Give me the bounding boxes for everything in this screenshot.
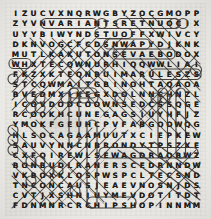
letter-cell[interactable]: K <box>74 90 83 100</box>
letter-cell[interactable]: M <box>56 80 65 90</box>
letter-cell[interactable]: D <box>47 100 56 110</box>
letter-cell[interactable]: W <box>120 39 129 49</box>
letter-cell[interactable]: U <box>147 70 156 80</box>
letter-cell[interactable]: S <box>156 181 165 191</box>
letter-cell[interactable]: T <box>101 29 110 39</box>
letter-cell[interactable]: N <box>174 90 183 100</box>
letter-cell[interactable]: L <box>65 161 74 171</box>
letter-cell[interactable]: H <box>138 80 147 90</box>
letter-cell[interactable]: O <box>56 100 65 110</box>
letter-cell[interactable]: S <box>165 100 174 110</box>
letter-cell[interactable]: A <box>174 80 183 90</box>
letter-cell[interactable]: U <box>47 161 56 171</box>
letter-cell[interactable]: W <box>174 120 183 130</box>
letter-cell[interactable]: E <box>120 49 129 59</box>
letter-cell[interactable]: A <box>74 130 83 140</box>
letter-cell[interactable]: G <box>56 39 65 49</box>
letter-cell[interactable]: B <box>38 29 47 39</box>
letter-cell[interactable]: E <box>165 70 174 80</box>
letter-cell[interactable]: N <box>92 161 101 171</box>
letter-cell[interactable]: B <box>11 161 20 171</box>
letter-cell[interactable]: N <box>138 181 147 191</box>
letter-cell[interactable]: C <box>11 191 20 201</box>
letter-cell[interactable]: N <box>29 39 38 49</box>
letter-cell[interactable]: V <box>129 49 138 59</box>
letter-cell[interactable]: L <box>192 90 201 100</box>
letter-cell[interactable]: A <box>65 80 74 90</box>
letter-cell[interactable]: R <box>56 201 65 211</box>
letter-cell[interactable]: B <box>101 80 110 90</box>
letter-cell[interactable]: I <box>74 80 83 90</box>
letter-cell[interactable]: K <box>192 39 201 49</box>
letter-cell[interactable]: X <box>20 150 29 160</box>
letter-cell[interactable]: E <box>83 90 92 100</box>
letter-cell[interactable]: M <box>47 90 56 100</box>
letter-cell[interactable]: G <box>92 80 101 90</box>
letter-cell[interactable]: V <box>38 39 47 49</box>
letter-cell[interactable]: K <box>174 39 183 49</box>
letter-cell[interactable]: A <box>138 49 147 59</box>
letter-cell[interactable]: Y <box>11 120 20 130</box>
letter-cell[interactable]: M <box>111 191 120 201</box>
letter-cell[interactable]: F <box>11 201 20 211</box>
letter-cell[interactable]: D <box>183 181 192 191</box>
letter-cell[interactable]: I <box>47 29 56 39</box>
letter-cell[interactable]: S <box>11 140 20 150</box>
letter-cell[interactable]: P <box>120 171 129 181</box>
letter-cell[interactable]: W <box>156 60 165 70</box>
letter-cell[interactable]: N <box>74 191 83 201</box>
letter-cell[interactable]: G <box>192 120 201 130</box>
letter-cell[interactable]: N <box>38 19 47 29</box>
letter-cell[interactable]: A <box>65 181 74 191</box>
letter-cell[interactable]: X <box>192 49 201 59</box>
letter-cell[interactable]: I <box>147 130 156 140</box>
letter-cell[interactable]: N <box>174 161 183 171</box>
letter-cell[interactable]: Q <box>165 80 174 90</box>
letter-cell[interactable]: H <box>20 60 29 70</box>
letter-cell[interactable]: O <box>183 80 192 90</box>
letter-cell[interactable]: C <box>65 39 74 49</box>
letter-cell[interactable]: D <box>65 100 74 110</box>
letter-cell[interactable]: S <box>165 140 174 150</box>
letter-cell[interactable]: X <box>192 19 201 29</box>
letter-cell[interactable]: X <box>101 90 110 100</box>
letter-cell[interactable]: W <box>183 150 192 160</box>
letter-cell[interactable]: V <box>47 19 56 29</box>
letter-cell[interactable]: N <box>29 161 38 171</box>
letter-cell[interactable]: C <box>147 100 156 110</box>
letter-cell[interactable]: K <box>47 110 56 120</box>
letter-cell[interactable]: Z <box>192 110 201 120</box>
letter-cell[interactable]: E <box>29 90 38 100</box>
letter-cell[interactable]: N <box>83 70 92 80</box>
letter-cell[interactable]: O <box>174 9 183 19</box>
letter-cell[interactable]: M <box>192 201 201 211</box>
letter-cell[interactable]: S <box>120 100 129 110</box>
letter-cell[interactable]: E <box>101 181 110 191</box>
letter-cell[interactable]: N <box>147 19 156 29</box>
letter-cell[interactable]: W <box>192 161 201 171</box>
letter-cell[interactable]: W <box>47 80 56 90</box>
letter-cell[interactable]: G <box>183 100 192 110</box>
letter-cell[interactable]: O <box>92 49 101 59</box>
letter-cell[interactable]: W <box>74 60 83 70</box>
letter-cell[interactable]: C <box>129 161 138 171</box>
letter-cell[interactable]: T <box>83 80 92 90</box>
letter-cell[interactable]: N <box>174 201 183 211</box>
letter-cell[interactable]: C <box>156 90 165 100</box>
letter-cell[interactable]: I <box>156 201 165 211</box>
letter-cell[interactable]: R <box>138 70 147 80</box>
letter-cell[interactable]: Z <box>183 90 192 100</box>
letter-cell[interactable]: T <box>101 19 110 29</box>
letter-cell[interactable]: R <box>120 19 129 29</box>
letter-cell[interactable]: N <box>165 201 174 211</box>
letter-cell[interactable]: O <box>38 171 47 181</box>
letter-cell[interactable]: J <box>92 181 101 191</box>
letter-cell[interactable]: H <box>165 110 174 120</box>
letter-cell[interactable]: P <box>101 120 110 130</box>
letter-cell[interactable]: C <box>138 130 147 140</box>
letter-cell[interactable]: D <box>138 150 147 160</box>
letter-cell[interactable]: S <box>11 80 20 90</box>
letter-cell[interactable]: W <box>111 150 120 160</box>
letter-cell[interactable]: D <box>20 201 29 211</box>
letter-cell[interactable]: E <box>129 100 138 110</box>
